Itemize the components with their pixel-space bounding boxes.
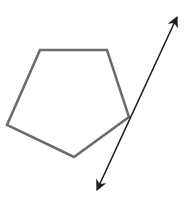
pentagon-shape bbox=[7, 50, 129, 157]
double-arrow-line bbox=[97, 17, 177, 190]
geometry-diagram bbox=[0, 0, 189, 197]
